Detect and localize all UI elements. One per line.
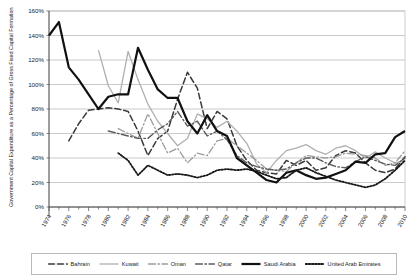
legend-label: Saudi Arabia [264, 261, 296, 267]
legend-label: Kuwait [122, 261, 139, 267]
legend-item-saudi-arabia[interactable]: Saudi Arabia [241, 260, 296, 268]
y-tick-label: 160% [28, 7, 44, 14]
legend-label: Qatar [218, 261, 232, 267]
legend-swatch-icon [195, 260, 215, 268]
legend-item-kuwait[interactable]: Kuwait [99, 260, 139, 268]
x-tick-label: 1984 [139, 213, 151, 228]
x-tick-label: 1986 [159, 213, 171, 228]
x-tick-label: 2008 [377, 213, 389, 228]
legend-swatch-icon [48, 260, 68, 268]
x-tick-label: 2010 [396, 213, 408, 228]
x-tick-label: 1980 [100, 213, 112, 228]
x-tick-label: 1976 [60, 213, 72, 228]
x-tick-label: 1974 [40, 213, 52, 228]
legend-swatch-icon [305, 260, 325, 268]
x-tick-label: 1996 [258, 213, 270, 228]
y-tick-label: 20% [32, 179, 45, 186]
y-tick-label: 60% [32, 130, 45, 137]
y-tick-label: 0% [35, 203, 44, 210]
x-tick-label: 2004 [337, 213, 349, 228]
legend-swatch-icon [241, 260, 261, 268]
legend-label: Bahrain [71, 261, 90, 267]
y-tick-label: 120% [28, 56, 44, 63]
plot-area: 0%20%40%60%80%100%120%140%160%1974197619… [22, 0, 414, 248]
legend-swatch-icon [99, 260, 119, 268]
y-tick-label: 100% [28, 81, 44, 88]
legend-label: United Arab Emirates [328, 261, 381, 267]
legend-label: Oman [171, 261, 186, 267]
chart-figure: Government Capital Expenditure as a Perc… [0, 0, 414, 280]
x-tick-label: 1998 [278, 213, 290, 228]
x-tick-label: 1994 [238, 213, 250, 228]
y-tick-label: 140% [28, 32, 44, 39]
x-tick-label: 2000 [298, 213, 310, 228]
chart-svg: 0%20%40%60%80%100%120%140%160%1974197619… [22, 0, 414, 248]
x-tick-label: 1982 [120, 213, 132, 228]
legend-item-qatar[interactable]: Qatar [195, 260, 232, 268]
x-tick-label: 2002 [317, 213, 329, 228]
y-axis-label-text: Government Capital Expenditure as a Perc… [8, 8, 14, 208]
y-axis-label: Government Capital Expenditure as a Perc… [0, 0, 22, 215]
x-tick-label: 1988 [179, 213, 191, 228]
chart-legend: BahrainKuwaitOmanQatarSaudi ArabiaUnited… [31, 253, 397, 275]
x-tick-label: 2006 [357, 213, 369, 228]
y-tick-label: 40% [32, 154, 45, 161]
y-tick-label: 80% [32, 105, 45, 112]
x-tick-label: 1978 [80, 213, 92, 228]
x-tick-label: 1990 [199, 213, 211, 228]
legend-item-oman[interactable]: Oman [148, 260, 186, 268]
legend-item-united-arab-emirates[interactable]: United Arab Emirates [305, 260, 381, 268]
legend-item-bahrain[interactable]: Bahrain [48, 260, 90, 268]
x-tick-label: 1992 [218, 213, 230, 228]
legend-swatch-icon [148, 260, 168, 268]
